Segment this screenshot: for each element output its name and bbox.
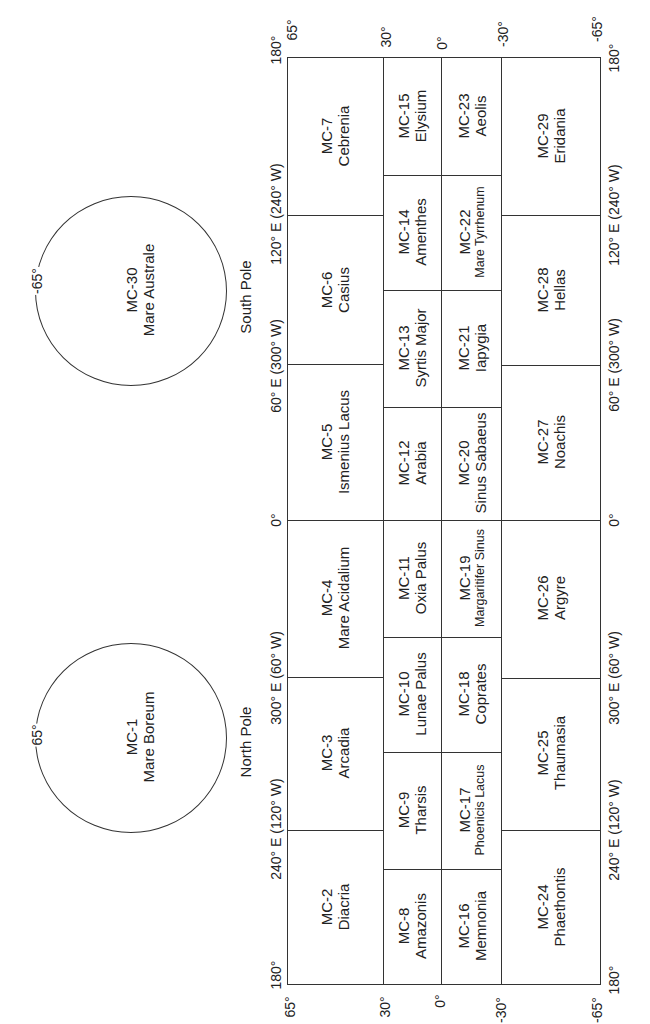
quadrangle-name: Mare Australe	[140, 244, 157, 337]
quadrangle-name: Oxia Palus	[412, 542, 429, 615]
quadrangle-mc-4: MC-4 Mare Acidalium	[318, 547, 353, 650]
lon-label-left: 240° E (120° W)	[268, 778, 284, 879]
quadrangle-name: Argyre	[551, 575, 568, 620]
quadrangle-code: MC-16	[455, 891, 472, 961]
lat-tick-top: 30°	[378, 26, 394, 47]
quadrangle-code: MC-22	[456, 186, 473, 277]
quadrangle-name: Phoenicis Lacus	[473, 764, 487, 855]
grid-border-top	[287, 57, 601, 58]
lon-tick-bottom-right: 180°	[606, 966, 622, 995]
quadrangle-code: MC-25	[534, 716, 551, 790]
lon-label-right: 0°	[606, 513, 622, 526]
quadrangle-mc-24: MC-24 Phaethontis	[534, 867, 569, 946]
divider	[383, 520, 501, 521]
quadrangle-name: Coprates	[472, 664, 489, 725]
quadrangle-mc-12: MC-12 Arabia	[395, 440, 430, 485]
divider	[383, 290, 501, 291]
quadrangle-code: MC-19	[456, 529, 473, 627]
quadrangle-mc-16: MC-16 Memnonia	[455, 891, 490, 961]
quadrangle-code: MC-13	[395, 308, 412, 387]
mars-quadrangle-map: -65° MC-30 Mare Australe South Pole 65° …	[0, 0, 650, 1024]
quadrangle-name: Arabia	[412, 440, 429, 485]
divider	[501, 215, 601, 216]
lon-label-right: 300° E (60° W)	[606, 631, 622, 725]
quadrangle-code: MC-20	[455, 413, 472, 514]
quadrangle-name: Cebrenia	[335, 106, 352, 167]
lon-label-left: 300° E (60° W)	[268, 631, 284, 725]
grid-border-bottom	[287, 984, 601, 985]
quadrangle-mc-9: MC-9 Tharsis	[395, 785, 430, 834]
quadrangle-mc-2: MC-2 Diacria	[318, 884, 353, 931]
lon-tick-top-right: 180°	[606, 44, 622, 73]
quadrangle-mc-5: MC-5 Ismenius Lacus	[318, 390, 353, 494]
lon-tick-bottom-left: 180°	[268, 961, 284, 990]
divider	[383, 752, 501, 753]
quadrangle-name: Mare Tyrrhenum	[473, 186, 487, 277]
lat-tick-top: -65°	[589, 16, 605, 42]
divider	[287, 215, 383, 216]
quadrangle-mc-18: MC-18 Coprates	[455, 664, 490, 725]
quadrangle-name: Memnonia	[472, 891, 489, 961]
north-pole-label: North Pole	[237, 707, 254, 778]
quadrangle-mc-30: MC-30 Mare Australe	[123, 244, 158, 337]
quadrangle-mc-17: MC-17 Phoenicis Lacus	[456, 764, 488, 855]
quadrangle-mc-21: MC-21 Iapygia	[455, 324, 490, 372]
quadrangle-name: Mare Boreum	[140, 692, 157, 783]
quadrangle-code: MC-11	[395, 542, 412, 615]
quadrangle-code: MC-27	[534, 415, 551, 469]
quadrangle-mc-28: MC-28 Hellas	[534, 267, 569, 312]
quadrangle-name: Noachis	[551, 415, 568, 469]
quadrangle-code: MC-9	[395, 785, 412, 834]
lon-tick-top-left: 180°	[268, 36, 284, 65]
quadrangle-code: MC-30	[123, 244, 140, 337]
divider	[383, 637, 501, 638]
divider	[287, 830, 383, 831]
quadrangle-name: Ismenius Lacus	[335, 390, 352, 494]
quadrangle-name: Thaumasia	[551, 716, 568, 790]
divider	[501, 830, 601, 831]
quadrangle-name: Phaethontis	[551, 867, 568, 946]
quadrangle-mc-14: MC-14 Amenthes	[395, 198, 430, 266]
quadrangle-name: Aeolis	[472, 93, 489, 138]
quadrangle-name: Amazonis	[412, 893, 429, 959]
lon-label-left: 120° E (240° W)	[268, 163, 284, 264]
lon-label-left: 0°	[268, 513, 284, 526]
quadrangle-code: MC-17	[456, 764, 473, 855]
quadrangle-code: MC-1	[123, 692, 140, 783]
lat-tick-bottom: 65°	[282, 996, 298, 1017]
quadrangle-mc-1: MC-1 Mare Boreum	[123, 692, 158, 783]
divider	[501, 520, 601, 521]
lon-label-left: 60° E (300° W)	[268, 319, 284, 413]
quadrangle-code: MC-4	[318, 547, 335, 650]
quadrangle-name: Eridania	[551, 108, 568, 163]
quadrangle-name: Margaritifer Sinus	[473, 529, 487, 627]
quadrangle-mc-10: MC-10 Lunae Palus	[395, 652, 430, 735]
quadrangle-code: MC-14	[395, 198, 412, 266]
quadrangle-code: MC-26	[534, 575, 551, 620]
quadrangle-mc-11: MC-11 Oxia Palus	[395, 542, 430, 615]
divider	[383, 869, 501, 870]
lat-tick-bottom: 0°	[432, 994, 448, 1007]
quadrangle-code: MC-2	[318, 884, 335, 931]
quadrangle-code: MC-12	[395, 440, 412, 485]
quadrangle-mc-27: MC-27 Noachis	[534, 415, 569, 469]
quadrangle-name: Tharsis	[412, 785, 429, 834]
quadrangle-mc-7: MC-7 Cebrenia	[318, 106, 353, 167]
quadrangle-mc-15: MC-15 Elysium	[395, 90, 430, 143]
quadrangle-name: Mare Acidalium	[335, 547, 352, 650]
quadrangle-name: Arcadia	[335, 728, 352, 779]
quadrangle-mc-22: MC-22 Mare Tyrrhenum	[456, 186, 488, 277]
divider	[501, 678, 601, 679]
quadrangle-name: Iapygia	[472, 324, 489, 372]
quadrangle-mc-8: MC-8 Amazonis	[395, 893, 430, 959]
quadrangle-code: MC-23	[455, 93, 472, 138]
quadrangle-name: Diacria	[335, 884, 352, 931]
quadrangle-mc-26: MC-26 Argyre	[534, 575, 569, 620]
divider	[383, 407, 501, 408]
quadrangle-code: MC-21	[455, 324, 472, 372]
divider	[287, 520, 383, 521]
quadrangle-code: MC-6	[318, 267, 335, 313]
quadrangle-mc-25: MC-25 Thaumasia	[534, 716, 569, 790]
quadrangle-code: MC-3	[318, 728, 335, 779]
divider	[383, 175, 501, 176]
